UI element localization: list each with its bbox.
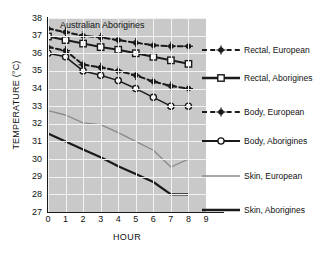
x-tick-label: 3 (94, 215, 108, 224)
y-tick-label: 35 (20, 66, 42, 75)
y-tick-label: 28 (20, 190, 42, 199)
x-tick-label: 0 (41, 215, 55, 224)
x-tick-label: 7 (164, 215, 178, 224)
gridline-horizontal (48, 18, 206, 19)
y-tick-label: 33 (20, 102, 42, 111)
y-tick-label: 31 (20, 137, 42, 146)
gridline-vertical (101, 18, 102, 212)
legend-entry[interactable]: Skin, Aborigines (208, 204, 328, 216)
y-tick-label: 38 (20, 14, 42, 23)
gridline-horizontal (48, 194, 206, 195)
y-tick-label: 32 (20, 119, 42, 128)
x-tick-label: 5 (129, 215, 143, 224)
x-tick-label: 9 (199, 215, 213, 224)
legend-key (200, 44, 242, 56)
series-layer (48, 18, 206, 212)
data-point-spoked-circle (216, 107, 225, 116)
gridline-vertical (48, 18, 49, 212)
y-tick-label: 34 (20, 84, 42, 93)
legend-label: Rectal, Aborigines (244, 72, 313, 84)
plot-area (48, 18, 206, 212)
gridline-vertical (153, 18, 154, 212)
gridline-horizontal (48, 71, 206, 72)
gridline-horizontal (48, 159, 206, 160)
y-tick-label: 27 (20, 208, 42, 217)
gridline-horizontal (48, 36, 206, 37)
x-tick-label: 4 (111, 215, 125, 224)
data-point-open-circle (218, 138, 224, 144)
x-axis-title: HOUR (48, 232, 206, 242)
y-axis-line (47, 17, 48, 213)
legend-key (200, 106, 242, 118)
chart-legend: Rectal, EuropeanRectal, AboriginesBody, … (208, 18, 328, 212)
x-tick-label: 8 (181, 215, 195, 224)
y-tick-label: 29 (20, 172, 42, 181)
gridline-vertical (171, 18, 172, 212)
y-tick-label: 36 (20, 49, 42, 58)
gridline-horizontal (48, 124, 206, 125)
legend-key (200, 204, 242, 216)
y-tick-label: 30 (20, 155, 42, 164)
data-point-spoked-circle (216, 45, 225, 54)
legend-key (200, 135, 242, 147)
gridline-horizontal (48, 141, 206, 142)
temperature-chart-figure: 272829303132333435363738 0123456789 TEMP… (0, 0, 328, 264)
legend-entry[interactable]: Body, European (208, 106, 328, 118)
y-tick-label: 37 (20, 31, 42, 40)
gridline-vertical (188, 18, 189, 212)
legend-label: Body, European (244, 106, 304, 118)
gridline-vertical (66, 18, 67, 212)
legend-entry[interactable]: Rectal, European (208, 44, 328, 56)
legend-entry[interactable]: Body, Aborigines (208, 135, 328, 147)
x-axis-line (47, 212, 224, 213)
x-tick-label: 1 (59, 215, 73, 224)
gridline-vertical (118, 18, 119, 212)
gridline-horizontal (48, 177, 206, 178)
gridline-horizontal (48, 89, 206, 90)
legend-label: Rectal, European (244, 44, 310, 56)
gridline-horizontal (48, 106, 206, 107)
legend-key (200, 170, 242, 182)
x-tick-label: 2 (76, 215, 90, 224)
legend-entry[interactable]: Rectal, Aborigines (208, 72, 328, 84)
gridline-horizontal (48, 53, 206, 54)
legend-label: Skin, European (244, 170, 302, 182)
legend-entry[interactable]: Skin, European (208, 170, 328, 182)
y-axis-title: TEMPERATURE (°C) (11, 45, 21, 165)
legend-label: Body, Aborigines (244, 135, 307, 147)
gridline-vertical (83, 18, 84, 212)
x-tick-label: 6 (146, 215, 160, 224)
legend-label: Skin, Aborigines (244, 204, 305, 216)
gridline-vertical (136, 18, 137, 212)
data-point-open-square (218, 75, 224, 81)
legend-key (200, 72, 242, 84)
chart-title: Australian Aborigines (60, 20, 145, 30)
